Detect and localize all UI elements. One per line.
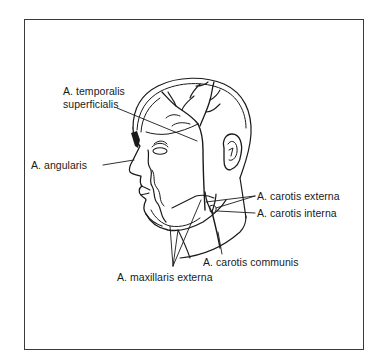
carotid-communis-vessel xyxy=(212,212,220,248)
facial-artery-wavy xyxy=(148,150,166,222)
forehead-contour xyxy=(141,98,160,132)
neck-base-curve xyxy=(180,216,246,258)
label-carotis-communis: A. carotis communis xyxy=(203,256,298,268)
leader-carotis-interna xyxy=(217,211,255,213)
label-carotis-interna: A. carotis interna xyxy=(257,207,337,219)
eye xyxy=(153,148,167,154)
temporal-twig-4 xyxy=(166,115,190,126)
ear-outer xyxy=(223,134,241,170)
leader-angularis xyxy=(103,160,134,165)
head-drawing xyxy=(0,0,384,363)
label-temporalis-line2: superficialis xyxy=(63,98,119,110)
label-carotis-externa: A. carotis externa xyxy=(257,190,340,202)
temporal-twig-3 xyxy=(190,82,208,98)
temporal-artery-trunk xyxy=(198,124,205,210)
temporal-twig-2 xyxy=(206,90,220,112)
label-temporalis-line1: A. temporalis xyxy=(63,85,125,97)
label-maxillaris-externa: A. maxillaris externa xyxy=(117,271,213,283)
leader-carotis-externa-1 xyxy=(206,196,255,202)
facial-artery-wavy-2 xyxy=(152,170,164,206)
mouth xyxy=(141,186,150,195)
ear-inner xyxy=(228,141,237,160)
temporal-twig-1 xyxy=(168,92,194,110)
carotid-interna-vessel xyxy=(212,194,216,212)
neck-front xyxy=(178,230,190,258)
label-angularis: A. angularis xyxy=(31,159,87,171)
leader-maxillaris-1 xyxy=(170,226,173,266)
anatomy-figure: A. temporalis superficialis A. angularis… xyxy=(0,0,384,363)
temporal-branch-parietal xyxy=(200,82,214,126)
leader-carotis-externa-2 xyxy=(216,196,255,208)
